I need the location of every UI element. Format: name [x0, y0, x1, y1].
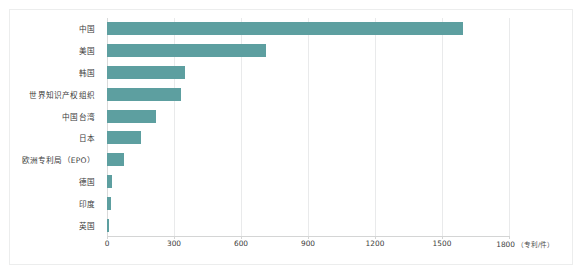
table-row — [107, 83, 509, 105]
x-axis-tick-300: 300 — [167, 239, 181, 248]
x-axis-tickmark-1800 — [509, 236, 510, 239]
table-row — [107, 40, 509, 62]
x-axis-tick-0: 0 — [105, 239, 110, 248]
table-row — [107, 149, 509, 171]
bar-0 — [107, 22, 463, 35]
bar-8 — [107, 197, 111, 210]
bar-chart-figure: 中国 美国 韩国 世界知识产权组织 中国台湾 日本 欧洲专利局（EPO） 德国 … — [0, 0, 582, 274]
y-axis-label-2: 韩国 — [0, 62, 101, 84]
y-axis-label-5: 日本 — [0, 127, 101, 149]
bar-5 — [107, 131, 141, 144]
bar-6 — [107, 153, 124, 166]
table-row — [107, 171, 509, 193]
gridline-1800 — [509, 18, 510, 236]
bar-1 — [107, 44, 266, 57]
y-axis-label-3: 世界知识产权组织 — [0, 83, 101, 105]
x-axis-tick-1200: 1200 — [366, 239, 385, 248]
table-row — [107, 105, 509, 127]
y-axis-label-8: 印度 — [0, 192, 101, 214]
x-axis-tickmark-1200 — [375, 236, 376, 239]
x-axis-tick-labels: 0300600900120015001800 （专利/件） — [0, 239, 582, 259]
bar-4 — [107, 110, 156, 123]
x-axis-tickmark-300 — [174, 236, 175, 239]
table-row — [107, 62, 509, 84]
x-axis-tickmark-1500 — [442, 236, 443, 239]
table-row — [107, 127, 509, 149]
table-row — [107, 214, 509, 236]
plot-area — [107, 18, 509, 236]
y-axis-label-1: 美国 — [0, 40, 101, 62]
y-axis-label-4: 中国台湾 — [0, 105, 101, 127]
x-axis-tick-600: 600 — [234, 239, 248, 248]
x-axis-tickmark-900 — [308, 236, 309, 239]
bar-2 — [107, 66, 185, 79]
table-row — [107, 18, 509, 40]
bars-container — [107, 18, 509, 236]
x-axis-tick-1500: 1500 — [433, 239, 452, 248]
y-axis-label-6: 欧洲专利局（EPO） — [0, 149, 101, 171]
y-axis-labels: 中国 美国 韩国 世界知识产权组织 中国台湾 日本 欧洲专利局（EPO） 德国 … — [0, 18, 101, 236]
y-axis-label-9: 英国 — [0, 214, 101, 236]
x-axis-unit-label: （专利/件） — [515, 241, 554, 249]
table-row — [107, 192, 509, 214]
x-axis-tickmark-0 — [107, 236, 108, 239]
y-axis-label-0: 中国 — [0, 18, 101, 40]
x-axis-tick-1800: 1800 （专利/件） — [496, 239, 554, 249]
y-axis-label-7: 德国 — [0, 171, 101, 193]
x-axis-tick-900: 900 — [301, 239, 315, 248]
bar-7 — [107, 175, 112, 188]
bar-3 — [107, 88, 181, 101]
x-axis-tickmark-600 — [241, 236, 242, 239]
bar-9 — [107, 219, 109, 232]
